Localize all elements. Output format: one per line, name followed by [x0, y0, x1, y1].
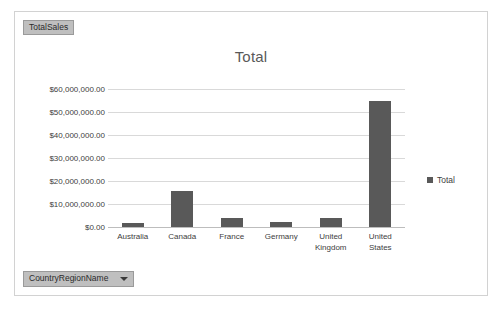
value-axis-tick-label: $40,000,000.00 — [49, 131, 105, 140]
category-axis-label: Australia — [108, 231, 158, 253]
pivot-chart-frame: TotalSales Total $0.00$10,000,000.00$20,… — [14, 11, 488, 296]
category-axis-label: France — [207, 231, 257, 253]
gridline — [108, 227, 405, 228]
bar-slot — [356, 89, 406, 227]
bar-series-total — [108, 89, 405, 227]
plot-area — [108, 89, 405, 227]
bar[interactable] — [369, 101, 391, 227]
legend-entry-label: Total — [437, 175, 455, 185]
value-axis-tick-label: $60,000,000.00 — [49, 85, 105, 94]
category-axis-label: Germany — [257, 231, 307, 253]
bar[interactable] — [221, 218, 243, 227]
legend-swatch-icon — [427, 177, 433, 183]
bar-slot — [207, 89, 257, 227]
bar-slot — [108, 89, 158, 227]
value-axis-tick-label: $0.00 — [85, 223, 105, 232]
value-axis-tick-label: $50,000,000.00 — [49, 108, 105, 117]
category-axis-label: Canada — [158, 231, 208, 253]
axis-field-button[interactable]: CountryRegionName — [23, 271, 134, 287]
chart-title: Total — [15, 48, 487, 65]
bar-slot — [257, 89, 307, 227]
bar-slot — [306, 89, 356, 227]
chevron-down-icon[interactable] — [120, 277, 128, 281]
bar[interactable] — [122, 223, 144, 227]
bar[interactable] — [270, 222, 292, 227]
category-axis-label: UnitedKingdom — [306, 231, 356, 253]
axis-field-button-label: CountryRegionName — [29, 274, 108, 283]
chart-legend: Total — [427, 175, 455, 185]
legend-field-button[interactable]: TotalSales — [23, 20, 74, 35]
value-axis-tick-label: $30,000,000.00 — [49, 154, 105, 163]
bar[interactable] — [320, 218, 342, 227]
value-axis-tick-label: $20,000,000.00 — [49, 177, 105, 186]
category-axis-label: UnitedStates — [356, 231, 406, 253]
value-axis-tick-label: $10,000,000.00 — [49, 200, 105, 209]
category-axis: AustraliaCanadaFranceGermanyUnitedKingdo… — [108, 231, 405, 253]
legend-field-button-label: TotalSales — [29, 23, 68, 32]
value-axis: $0.00$10,000,000.00$20,000,000.00$30,000… — [23, 89, 105, 227]
bar-slot — [158, 89, 208, 227]
bar[interactable] — [171, 191, 193, 227]
